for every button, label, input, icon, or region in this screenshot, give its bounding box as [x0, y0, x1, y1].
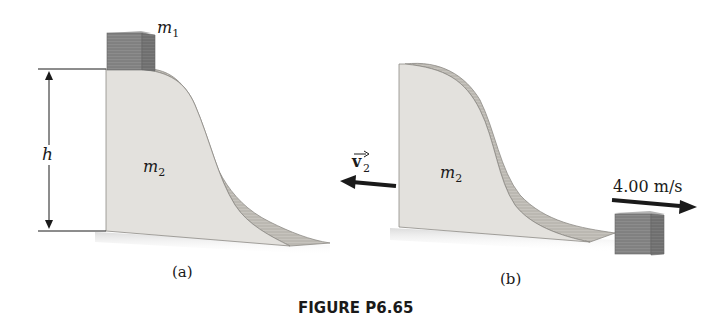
arrow-down-icon [45, 220, 53, 229]
panel-b-label: (b) [500, 270, 521, 288]
height-label: h [42, 144, 53, 164]
velocity-arrow-left-icon [352, 182, 396, 186]
wedge-m2-front-b [399, 64, 590, 242]
panel-a-label: (a) [172, 263, 193, 281]
arrow-up-icon [45, 71, 53, 80]
arrowhead-left-icon [340, 175, 356, 189]
block-m1-b [615, 211, 665, 255]
velocity-arrow-right-icon [612, 200, 680, 206]
svg-text:2: 2 [363, 162, 370, 175]
block-m1 [107, 31, 155, 71]
panel-a: h m1 m2 (a) [38, 18, 330, 281]
figure-canvas: h m1 m2 (a) v 2 [0, 0, 728, 323]
svg-text:v: v [351, 152, 362, 171]
panel-b: v 2 4.00 m/s m2 (b) [340, 63, 697, 288]
figure-caption: FIGURE P6.65 [298, 299, 413, 317]
v2-label: v 2 [351, 151, 370, 175]
arrowhead-right-icon [679, 200, 697, 214]
block-speed-label: 4.00 m/s [613, 177, 682, 196]
m1-label: m1 [157, 18, 179, 40]
